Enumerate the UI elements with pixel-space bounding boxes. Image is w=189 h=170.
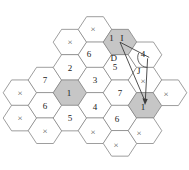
cell-cross-mark: × bbox=[90, 127, 95, 137]
cellular-hex-diagram: ××76××215×634×1576×4×1××IDJ bbox=[0, 0, 189, 170]
cell-number-label: 2 bbox=[68, 63, 73, 73]
cell-cross-mark: × bbox=[136, 128, 141, 138]
cell-number-label: 1 bbox=[67, 88, 72, 98]
cell-cross-mark: × bbox=[67, 37, 72, 47]
cell-number-label: 6 bbox=[43, 101, 48, 111]
cell-number-label: 7 bbox=[118, 88, 123, 98]
cell-number-label: 1 bbox=[109, 33, 114, 43]
cell-number-label: 4 bbox=[93, 102, 98, 112]
cell-number-label: 3 bbox=[93, 75, 98, 85]
i-label: I bbox=[121, 33, 124, 43]
cell-number-label: 5 bbox=[113, 62, 118, 72]
cell-number-label: 6 bbox=[115, 114, 120, 124]
cell-number-label: 5 bbox=[68, 113, 73, 123]
cell-cross-mark: × bbox=[17, 113, 22, 123]
cell-cross-mark: × bbox=[140, 76, 145, 86]
j-label: J bbox=[137, 66, 141, 76]
cell-cross-mark: × bbox=[163, 89, 168, 99]
cell-cross-mark: × bbox=[42, 126, 47, 136]
cell-cross-mark: × bbox=[17, 88, 22, 98]
cell-cross-mark: × bbox=[90, 24, 95, 34]
cell-number-label: 7 bbox=[43, 75, 48, 85]
cell-number-label: 6 bbox=[87, 49, 92, 59]
d-label: D bbox=[111, 53, 118, 63]
cell-cross-mark: × bbox=[113, 140, 118, 150]
hex-grid-svg: ××76××215×634×1576×4×1××IDJ bbox=[0, 0, 189, 170]
